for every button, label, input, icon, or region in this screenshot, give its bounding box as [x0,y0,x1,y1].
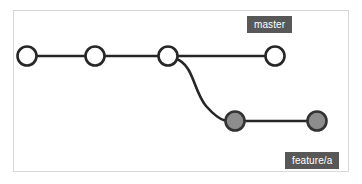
diagram-frame [13,10,349,172]
git-branch-diagram: master feature/a [0,0,362,184]
branch-label-master[interactable]: master [247,16,292,33]
branch-label-feature-a[interactable]: feature/a [285,152,339,169]
